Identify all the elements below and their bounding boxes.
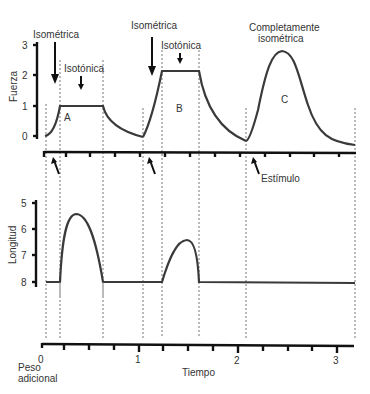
length-tick-6: 6 (21, 224, 27, 235)
length-axis (32, 200, 36, 287)
force-tick-0: 0 (22, 131, 28, 142)
annotation-isotonic-b: Isotónica (161, 40, 201, 51)
annotation-fully-isometric-line1: Completamente (249, 22, 320, 33)
extra-weight-label-line1: Peso (18, 362, 41, 373)
curve-label-a: A (64, 112, 71, 123)
time-axis (42, 343, 354, 353)
length-tick-5: 5 (21, 198, 27, 209)
annotation-isotonic-a: Isotónica (64, 63, 104, 74)
length-axis-label: Longitud (7, 226, 18, 264)
length-curve (46, 214, 355, 283)
stimulus-axis (44, 151, 356, 157)
force-axis (33, 42, 37, 139)
time-tick-2: 2 (234, 355, 240, 366)
annotation-isometric-b: Isométrica (131, 20, 178, 31)
force-curve-c (246, 51, 355, 145)
length-tick-8: 8 (21, 277, 27, 288)
arrow-down-icon (78, 76, 84, 90)
arrow-down-icon (148, 37, 156, 76)
time-tick-1: 1 (135, 354, 141, 365)
arrow-down-icon (177, 53, 183, 64)
extra-weight-label-line2: adicional (18, 373, 57, 384)
length-tick-7: 7 (21, 250, 27, 261)
dashed-guides (46, 50, 355, 338)
time-tick-3: 3 (333, 355, 339, 366)
stimulus-arrow-icon (251, 157, 259, 174)
annotation-fully-isometric-line2: isométrica (258, 33, 304, 44)
force-axis-label: Fuerza (8, 70, 19, 102)
curve-label-c: C (281, 94, 288, 105)
force-tick-3: 3 (22, 40, 28, 51)
muscle-contraction-diagram: 3 2 1 0 Fuerza A B C Isométrica Isotónic… (0, 0, 370, 394)
annotation-isometric-a: Isométrica (33, 29, 80, 40)
arrow-down-icon (51, 42, 59, 84)
stimulus-arrow-icon (147, 157, 155, 174)
stimulus-label: Estímulo (261, 173, 300, 184)
time-axis-label: Tiempo (182, 367, 215, 378)
curve-label-b: B (176, 103, 183, 114)
length-jitter (60, 282, 103, 297)
stimulus-arrow-icon (51, 157, 59, 174)
force-curve-b (143, 71, 246, 141)
force-tick-1: 1 (22, 101, 28, 112)
force-tick-2: 2 (22, 70, 28, 81)
